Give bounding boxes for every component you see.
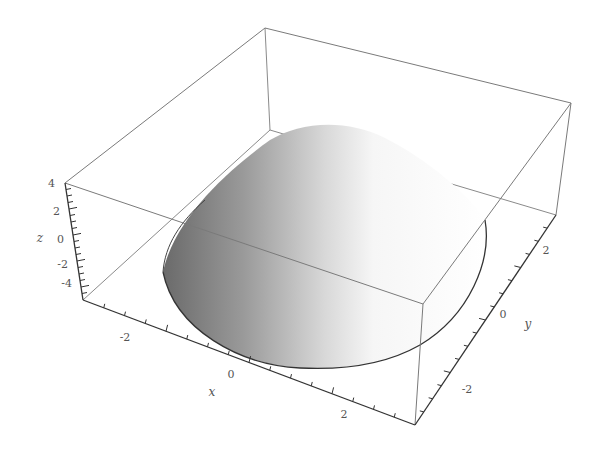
x-axis-label: x (209, 385, 216, 399)
y-axis-label: y (524, 317, 532, 331)
y-tick-neg2: -2 (462, 383, 473, 396)
x-tick-neg2: -2 (120, 331, 131, 344)
y-tick-0: 0 (500, 308, 507, 321)
z-tick-2: 2 (53, 205, 60, 218)
y-tick-2: 2 (543, 244, 550, 257)
z-tick-neg4: -4 (61, 277, 72, 290)
z-tick-4: 4 (48, 177, 55, 190)
surface-plot-3d: 4 2 0 -2 -4 z -2 0 2 x -2 0 2 y (0, 0, 600, 453)
z-tick-neg2: -2 (57, 258, 68, 271)
z-axis-label: z (36, 231, 44, 245)
z-tick-0: 0 (57, 233, 64, 246)
x-tick-0: 0 (228, 368, 235, 381)
x-tick-2: 2 (341, 408, 348, 421)
z-tick-labels: 4 2 0 -2 -4 (48, 177, 72, 290)
